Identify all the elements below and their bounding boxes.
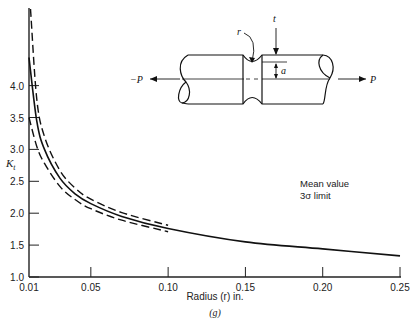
x-tick-label: 0.05: [81, 282, 101, 293]
label-t: t: [273, 13, 276, 24]
upper-3sigma-curve: [31, 9, 169, 225]
legend: Mean value 3σ limit: [300, 178, 349, 201]
notched-shaft-diagram: [150, 28, 366, 104]
y-tick-label: 4.0: [10, 81, 24, 92]
x-tick-label: 0.10: [158, 282, 178, 293]
y-tick-label: 2.0: [10, 208, 24, 219]
data-series: [29, 9, 400, 256]
y-axis-label: Kt: [5, 157, 16, 172]
lower-3sigma-curve: [29, 118, 168, 232]
legend-3sigma-limit: 3σ limit: [300, 190, 331, 201]
x-ticks: 0.010.050.100.150.200.25: [19, 267, 410, 293]
shaft-top-edge: [188, 55, 323, 62]
x-axis-label: Radius (r) in.: [186, 291, 243, 302]
y-tick-label: 3.5: [10, 113, 24, 124]
mean-value-curve: [29, 58, 400, 256]
label-right-load: P: [369, 74, 376, 85]
x-tick-label: 0.01: [19, 282, 39, 293]
figure-caption: (g): [209, 307, 221, 319]
label-left-load: −P: [130, 74, 143, 85]
y-tick-label: 1.5: [10, 240, 24, 251]
shaft-bottom-edge: [188, 98, 323, 105]
y-tick-label: 3.0: [10, 144, 24, 155]
x-tick-label: 0.25: [390, 282, 410, 293]
label-a: a: [281, 65, 286, 76]
right-break-symbol: [323, 55, 333, 104]
legend-mean-value: Mean value: [300, 178, 349, 189]
chart-canvas: 1.01.52.02.53.03.54.0 0.010.050.100.150.…: [0, 0, 410, 321]
label-r: r: [237, 26, 241, 37]
y-tick-label: 2.5: [10, 176, 24, 187]
x-tick-label: 0.20: [313, 282, 333, 293]
